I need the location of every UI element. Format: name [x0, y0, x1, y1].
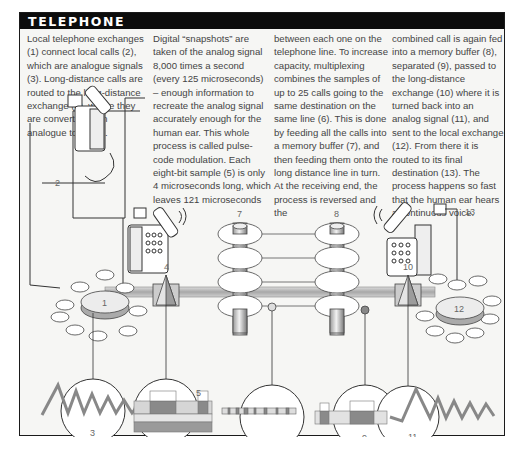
telephone-infographic-panel: TELEPHONE Local telephone exchanges (1) … — [19, 12, 505, 436]
callout-lines — [93, 305, 408, 391]
junction-9 — [361, 306, 369, 314]
label-4: 4 — [164, 262, 169, 272]
junction-6 — [268, 303, 276, 311]
label-10: 10 — [403, 262, 413, 272]
memory-buffer-8 — [315, 223, 359, 335]
telephone-icon-top-left — [68, 85, 114, 182]
label-7: 7 — [237, 209, 242, 219]
telephone-network-diagram: 2 — [20, 13, 506, 437]
long-distance-exchange-10 — [395, 275, 421, 306]
label-12: 12 — [454, 304, 464, 314]
label-8: 8 — [334, 209, 339, 219]
label-5: 5 — [196, 388, 201, 398]
telephone-icon-right — [374, 201, 457, 285]
multiplexed-line-6 — [222, 408, 296, 414]
long-distance-exchange-4 — [153, 275, 179, 306]
label-9: 9 — [362, 433, 367, 437]
label-6: 6 — [270, 435, 275, 437]
label-11: 11 — [408, 432, 417, 437]
label-1: 1 — [102, 298, 107, 308]
telephone-icon-mid-left — [128, 206, 186, 273]
label-13: 13 — [465, 207, 475, 217]
memory-buffer-7 — [218, 223, 262, 335]
label-3: 3 — [90, 428, 95, 437]
local-exchange-1 — [51, 270, 147, 341]
label-2: 2 — [55, 178, 60, 188]
